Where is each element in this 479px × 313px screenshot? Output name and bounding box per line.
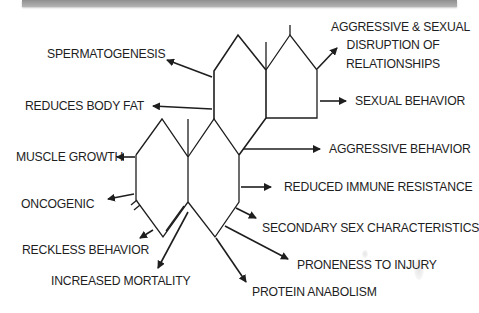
label-relationships: RELATIONSHIPS bbox=[331, 57, 455, 71]
ring-c bbox=[214, 35, 266, 155]
ring-d bbox=[266, 35, 317, 118]
label-sexual-behavior: SEXUAL BEHAVIOR bbox=[355, 94, 465, 108]
label-spermatogenesis: SPERMATOGENESIS bbox=[47, 47, 165, 61]
label-increased-mortality: INCREASED MORTALITY bbox=[51, 274, 190, 288]
label-muscle-growth: MUSCLE GROWTH bbox=[16, 150, 123, 164]
label-proneness-to-injury: PRONENESS TO INJURY bbox=[297, 258, 437, 272]
label-aggressive-sexual: AGGRESSIVE & SEXUAL bbox=[331, 20, 455, 34]
ring-b bbox=[188, 119, 239, 237]
arrow-protein-anabolism bbox=[216, 238, 246, 282]
arrow-spermatogenesis bbox=[167, 60, 212, 77]
label-reduces-body-fat: REDUCES BODY FAT bbox=[25, 99, 144, 113]
label-protein-anabolism: PROTEIN ANABOLISM bbox=[252, 285, 377, 299]
ring-a bbox=[136, 119, 188, 237]
label-reckless-behavior: RECKLESS BEHAVIOR bbox=[22, 243, 149, 257]
arrow-reckless-behavior bbox=[140, 230, 153, 238]
double-bond bbox=[166, 206, 184, 231]
label-disruption-of: DISRUPTION OF bbox=[331, 38, 455, 52]
label-aggressive-behavior: AGGRESSIVE BEHAVIOR bbox=[329, 142, 471, 156]
arrow-reduces-body-fat bbox=[153, 106, 212, 109]
label-secondary-sex-characteristics: SECONDARY SEX CHARACTERISTICS bbox=[262, 221, 479, 235]
scan-smudge bbox=[362, 250, 368, 258]
arrow-oncogenic bbox=[108, 194, 134, 199]
label-oncogenic: ONCOGENIC bbox=[21, 197, 94, 211]
label-reduced-immune-resistance: REDUCED IMMUNE RESISTANCE bbox=[284, 180, 472, 194]
arrow-secondary-sex bbox=[236, 208, 256, 218]
